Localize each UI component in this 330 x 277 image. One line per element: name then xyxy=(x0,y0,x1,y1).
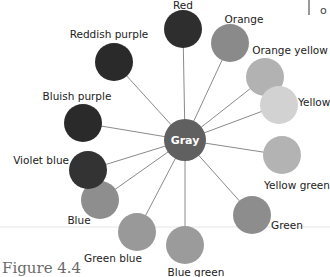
node-yellow: Yellow xyxy=(260,86,330,124)
label-violet-blue: Violet blue xyxy=(13,154,69,166)
figure-caption: Figure 4.4 xyxy=(2,259,81,277)
node-reddish-purple: Reddish purple xyxy=(70,28,149,81)
color-wheel-diagram: o RedOrangeOrange yellowYellowYellow gre… xyxy=(0,0,330,277)
circle-blue-green xyxy=(166,226,204,264)
circle-orange xyxy=(211,24,249,62)
circle-red xyxy=(164,10,202,48)
node-blue-green: Blue green xyxy=(166,226,224,277)
circle-yellow xyxy=(260,86,298,124)
node-violet-blue: Violet blue xyxy=(13,151,107,189)
circle-violet-blue xyxy=(69,151,107,189)
node-bluish-purple: Bluish purple xyxy=(43,90,112,142)
label-yellow-green: Yellow green xyxy=(263,179,330,191)
node-green: Green xyxy=(233,196,303,234)
label-blue: Blue xyxy=(67,214,90,226)
circle-green xyxy=(233,196,271,234)
circle-reddish-purple xyxy=(95,43,133,81)
node-green-blue: Green blue xyxy=(84,213,156,264)
label-orange: Orange xyxy=(225,13,264,25)
node-red: Red xyxy=(164,0,202,48)
label-orange-yellow: Orange yellow xyxy=(252,44,328,56)
circle-green-blue xyxy=(118,213,156,251)
center-node: Gray xyxy=(164,119,206,161)
label-green-blue: Green blue xyxy=(84,252,142,264)
corner-text: o xyxy=(320,4,327,17)
center-label: Gray xyxy=(171,134,200,147)
label-reddish-purple: Reddish purple xyxy=(70,28,149,40)
circle-yellow-green xyxy=(263,136,301,174)
label-bluish-purple: Bluish purple xyxy=(43,90,112,102)
label-green: Green xyxy=(271,219,303,231)
circle-bluish-purple xyxy=(64,104,102,142)
label-yellow: Yellow xyxy=(297,96,330,108)
label-red: Red xyxy=(173,0,193,11)
node-yellow-green: Yellow green xyxy=(263,136,330,191)
label-blue-green: Blue green xyxy=(168,266,225,277)
